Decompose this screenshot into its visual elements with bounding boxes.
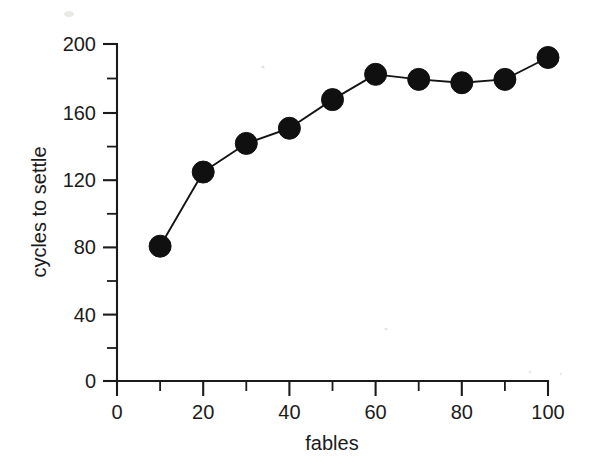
x-tick-label-80: 80 (451, 401, 473, 423)
chart-figure: 0 40 80 120 160 200 cycles to settle (0, 0, 593, 462)
y-tick-label-0: 0 (85, 370, 96, 392)
x-axis-title: fables (305, 432, 358, 454)
data-point (494, 68, 516, 90)
y-tick-label-120: 120 (63, 169, 96, 191)
x-tick-label-0: 0 (111, 401, 122, 423)
data-point (537, 46, 559, 68)
data-point (192, 161, 214, 183)
x-tick-label-40: 40 (278, 401, 300, 423)
data-point (278, 117, 300, 139)
x-tick-label-20: 20 (192, 401, 214, 423)
y-tick-label-160: 160 (63, 102, 96, 124)
line-chart-canvas: 0 40 80 120 160 200 cycles to settle (0, 0, 593, 462)
y-tick-label-80: 80 (74, 236, 96, 258)
data-point (149, 235, 171, 257)
data-point (451, 72, 473, 94)
y-tick-label-200: 200 (63, 33, 96, 55)
data-point (235, 132, 257, 154)
data-point (408, 68, 430, 90)
data-point (365, 63, 387, 85)
y-tick-label-40: 40 (74, 304, 96, 326)
x-tick-label-60: 60 (364, 401, 386, 423)
data-point (322, 89, 344, 111)
x-tick-label-100: 100 (531, 401, 564, 423)
y-axis-title: cycles to settle (28, 146, 50, 277)
